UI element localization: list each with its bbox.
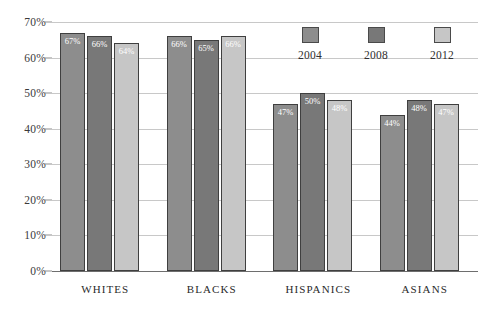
x-axis-category-label: WHITES	[52, 283, 159, 295]
bar-value-label: 44%	[381, 119, 404, 128]
axis-baseline	[52, 271, 478, 272]
y-axis-tick-mark	[45, 57, 52, 58]
x-axis-category-label: HISPANICS	[265, 283, 372, 295]
y-axis-tick-label: 10%	[2, 229, 46, 241]
bar: 44%	[380, 115, 405, 272]
bar: 66%	[87, 36, 112, 271]
bar-value-label: 47%	[435, 108, 458, 117]
bar-value-label: 66%	[168, 40, 191, 49]
bar-value-label: 66%	[222, 40, 245, 49]
bar: 66%	[221, 36, 246, 271]
y-axis-tick-label: 70%	[2, 16, 46, 28]
bar-value-label: 47%	[274, 108, 297, 117]
y-axis-tick-label: 0%	[2, 265, 46, 277]
bar: 50%	[300, 93, 325, 271]
y-axis-tick-mark	[45, 164, 52, 165]
bar-chart: 67%66%64%66%65%66%47%50%48%44%48%47% 200…	[0, 0, 500, 315]
bar-value-label: 66%	[88, 40, 111, 49]
y-axis-tick-mark	[45, 199, 52, 200]
y-axis-tick-mark	[45, 128, 52, 129]
bar-group: 67%66%64%	[52, 22, 159, 271]
legend-item: 2012	[420, 27, 464, 61]
legend-label: 2004	[298, 49, 322, 61]
y-axis-tick-label: 40%	[2, 123, 46, 135]
x-axis-category-label: ASIANS	[372, 283, 479, 295]
bar: 64%	[114, 43, 139, 271]
bar-value-label: 50%	[301, 97, 324, 106]
legend-label: 2008	[364, 49, 388, 61]
bar: 47%	[434, 104, 459, 271]
legend-item: 2008	[354, 27, 398, 61]
legend-swatch	[434, 27, 451, 43]
y-axis-tick-label: 30%	[2, 158, 46, 170]
y-axis-tick-label: 60%	[2, 52, 46, 64]
bar: 48%	[407, 100, 432, 271]
y-axis-tick-mark	[45, 271, 52, 272]
legend-swatch	[368, 27, 385, 43]
legend-label: 2012	[430, 49, 454, 61]
y-axis-tick-mark	[45, 22, 52, 23]
y-axis-tick-label: 20%	[2, 194, 46, 206]
bar: 48%	[327, 100, 352, 271]
legend-swatch	[302, 27, 319, 43]
y-axis-tick-mark	[45, 235, 52, 236]
bar: 47%	[273, 104, 298, 271]
y-axis-tick-mark	[45, 93, 52, 94]
bar: 65%	[194, 40, 219, 271]
y-axis-tick-label: 50%	[2, 87, 46, 99]
bar: 66%	[167, 36, 192, 271]
chart-legend: 200420082012	[288, 27, 464, 61]
bar-value-label: 67%	[61, 37, 84, 46]
bar-value-label: 48%	[408, 104, 431, 113]
bar-group: 66%65%66%	[159, 22, 266, 271]
bar-value-label: 48%	[328, 104, 351, 113]
bar: 67%	[60, 33, 85, 271]
bar-value-label: 65%	[195, 44, 218, 53]
legend-item: 2004	[288, 27, 332, 61]
x-axis-category-label: BLACKS	[159, 283, 266, 295]
bar-value-label: 64%	[115, 47, 138, 56]
